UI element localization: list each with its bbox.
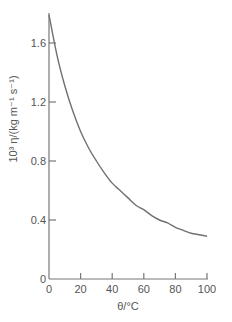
- viscosity-curve: [49, 15, 207, 236]
- x-axis-label: θ/°C: [117, 300, 139, 312]
- y-tick-label: 1.6: [31, 37, 46, 49]
- x-tick-label: 60: [138, 283, 150, 295]
- y-tick-label: 1.2: [31, 96, 46, 108]
- y-axis: 00.40.81.21.6: [31, 13, 56, 285]
- y-axis-label: 10³ η/(kg m⁻¹ s⁻¹): [7, 75, 19, 162]
- x-axis: 020406080100: [46, 273, 216, 295]
- x-tick-label: 40: [106, 283, 118, 295]
- x-tick-label: 80: [169, 283, 181, 295]
- y-tick-label: 0.4: [31, 214, 46, 226]
- viscosity-chart: 00.40.81.21.6 020406080100 θ/°C 10³ η/(k…: [0, 0, 232, 322]
- data-series: [49, 15, 207, 236]
- x-tick-label: 20: [74, 283, 86, 295]
- y-tick-label: 0.8: [31, 155, 46, 167]
- x-tick-label: 0: [46, 283, 52, 295]
- x-tick-label: 100: [198, 283, 216, 295]
